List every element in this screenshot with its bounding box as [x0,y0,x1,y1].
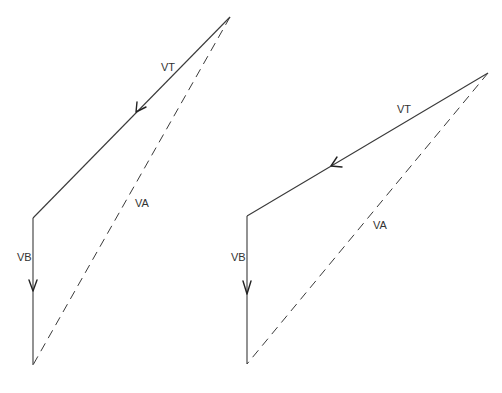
right-phasor-diagram: VT VB VA [231,73,488,364]
right-vt-vector [247,73,488,216]
left-va-label: VA [135,197,150,209]
left-va-vector [33,17,230,365]
left-vb-label: VB [17,251,32,263]
right-va-label: VA [373,219,388,231]
right-vb-label: VB [231,251,246,263]
left-phasor-diagram: VT VB VA [17,17,230,365]
left-vt-label: VT [161,61,175,73]
right-vt-arrowhead-icon [331,157,342,167]
phasor-diagram-canvas: VT VB VA VT VB VA [0,0,502,393]
left-vt-vector [33,17,230,218]
right-va-vector [247,73,488,364]
right-vt-label: VT [397,103,411,115]
